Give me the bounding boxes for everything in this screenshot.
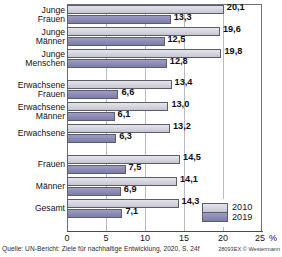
category-label: Erwachsene	[1, 123, 65, 145]
bar-2019	[67, 37, 165, 46]
category-label: JungeFrauen	[1, 4, 65, 26]
bar-rows: JungeFrauen20,113,3JungeMänner19,612,5Ju…	[0, 4, 282, 232]
bar-2019	[67, 187, 121, 196]
bar-2010	[67, 49, 221, 58]
x-tick-label: 5	[103, 233, 108, 243]
category-label-line: Erwachsene	[18, 129, 65, 138]
category-label: Gesamt	[1, 198, 65, 220]
bar-value-2019: 7,1	[125, 206, 138, 216]
bar-2019	[67, 165, 126, 174]
x-tick-label: 20	[218, 233, 228, 243]
bar-value-2010: 19,6	[223, 24, 241, 34]
bar-group: 19,612,5	[67, 26, 262, 48]
bar-value-2010: 19,8	[224, 46, 242, 56]
bar-2019	[67, 15, 171, 24]
legend-label-2019: 2019	[232, 213, 252, 223]
bar-value-2019: 6,1	[118, 109, 131, 119]
category-label: JungeMenschen	[1, 48, 65, 70]
category-label-line: Männer	[36, 37, 65, 46]
legend-swatches	[202, 203, 228, 223]
category-label-line: Menschen	[25, 59, 65, 68]
category-label: ErwachseneMänner	[1, 101, 65, 123]
category-label-line: Frauen	[38, 90, 65, 99]
bar-2010	[67, 199, 179, 208]
bar-2010	[67, 177, 177, 186]
bar-value-2019: 6,9	[124, 184, 137, 194]
bar-value-2019: 12,8	[170, 56, 188, 66]
bar-2019	[67, 90, 118, 99]
bar-group: 14,16,9	[67, 176, 262, 198]
bar-group: 13,26,3	[67, 123, 262, 145]
bar-row: ErwachseneMänner13,06,1	[0, 101, 282, 123]
bar-group: 13,46,6	[67, 79, 262, 101]
legend-labels: 2010 2019	[232, 203, 252, 223]
bar-2019	[67, 59, 167, 68]
bar-row: JungeFrauen20,113,3	[0, 4, 282, 26]
bar-group: 20,113,3	[67, 4, 262, 26]
bar-value-2019: 7,5	[129, 162, 142, 172]
category-label: Frauen	[1, 154, 65, 176]
bar-2019	[67, 134, 116, 143]
bar-value-2019: 6,3	[119, 131, 132, 141]
x-axis-unit: %	[269, 233, 277, 243]
source-note: Quelle: UN-Bericht: Ziele für nachhaltig…	[2, 245, 200, 252]
bar-2010	[67, 5, 224, 14]
bar-group: 19,812,8	[67, 48, 262, 70]
bar-value-2019: 12,5	[168, 34, 186, 44]
bar-value-2010: 13,2	[173, 121, 191, 131]
bar-row: JungeMänner19,612,5	[0, 26, 282, 48]
bar-2010	[67, 80, 172, 89]
x-tick-label: 15	[179, 233, 189, 243]
bar-value-2010: 14,3	[182, 196, 200, 206]
category-label: ErwachseneFrauen	[1, 79, 65, 101]
bar-group: 14,57,5	[67, 154, 262, 176]
copyright-credit: 28093EX © Westermann	[218, 246, 280, 252]
category-label-line: Frauen	[38, 160, 65, 169]
chart-legend: 2010 2019	[200, 199, 258, 227]
bar-2019	[67, 209, 122, 218]
bar-value-2010: 14,1	[180, 174, 198, 184]
category-label-line: Gesamt	[35, 204, 65, 213]
bar-row: Frauen14,57,5	[0, 154, 282, 176]
bar-group: 13,06,1	[67, 101, 262, 123]
x-tick-label: 0	[64, 233, 69, 243]
bar-value-2019: 13,3	[174, 12, 192, 22]
x-tick-label: 25	[255, 233, 265, 243]
bar-value-2010: 13,0	[171, 99, 189, 109]
x-axis-ticks: 0510152025%	[0, 232, 282, 246]
category-label-line: Frauen	[38, 15, 65, 24]
legend-swatch-2019	[202, 212, 228, 222]
bar-2010	[67, 27, 220, 36]
bar-value-2010: 13,4	[175, 77, 193, 87]
category-label-line: Männer	[36, 112, 65, 121]
bar-2019	[67, 112, 115, 121]
bar-2010	[67, 155, 180, 164]
category-label: JungeMänner	[1, 26, 65, 48]
category-label-line: Männer	[36, 182, 65, 191]
bar-row: ErwachseneFrauen13,46,6	[0, 79, 282, 101]
bar-value-2010: 14,5	[183, 152, 201, 162]
category-label: Männer	[1, 176, 65, 198]
bar-row: JungeMenschen19,812,8	[0, 48, 282, 70]
bar-value-2019: 6,6	[121, 87, 134, 97]
chart-root: JungeFrauen20,113,3JungeMänner19,612,5Ju…	[0, 0, 282, 257]
bar-value-2010: 20,1	[227, 2, 245, 12]
bar-row: Erwachsene13,26,3	[0, 123, 282, 145]
x-tick-label: 10	[140, 233, 150, 243]
bar-row: Männer14,16,9	[0, 176, 282, 198]
